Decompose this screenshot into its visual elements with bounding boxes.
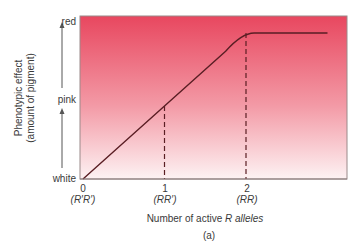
y-tick-label-white: white <box>52 173 77 184</box>
y-tick-label-red: red <box>62 16 76 27</box>
x-genotype-label-2: (RR) <box>236 194 257 205</box>
figure-caption: (a) <box>203 230 215 241</box>
x-axis-label: Number of active R alleles <box>147 213 264 224</box>
y-tick-label-pink: pink <box>58 94 77 105</box>
x-genotype-label-1: (RR′) <box>154 194 177 205</box>
plot-background <box>80 16 347 179</box>
x-axis-label-prefix: Number of active <box>147 213 225 224</box>
phenotype-chart: white pink red Phenotypic effect (amount… <box>0 0 364 251</box>
x-tick-label-0: 0 <box>80 183 86 194</box>
x-axis-label-italic: R alleles <box>225 213 263 224</box>
x-genotype-label-0: (R′R′) <box>71 194 96 205</box>
x-tick-label-1: 1 <box>162 183 168 194</box>
x-tick-label-2: 2 <box>244 183 250 194</box>
y-axis-label-line1: Phenotypic effect <box>13 60 24 137</box>
y-axis-label-line2: (amount of pigment) <box>25 53 36 143</box>
